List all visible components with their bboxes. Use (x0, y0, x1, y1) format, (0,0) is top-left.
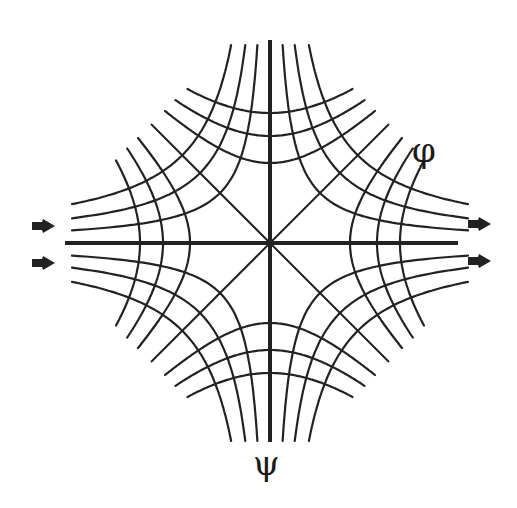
equipotential-line (138, 138, 190, 243)
arrow-in-left-lower-icon (32, 256, 55, 270)
psi-label: ψ (253, 446, 280, 480)
equipotential-line (116, 161, 140, 244)
equipotential-line (270, 111, 375, 163)
equipotential-line (188, 89, 271, 113)
equipotential-line (116, 243, 140, 326)
axes (65, 40, 458, 442)
equipotential-line (400, 243, 424, 326)
arrow-in-left-upper-icon (32, 219, 55, 233)
equipotential-line (188, 373, 271, 397)
stagnation-point (267, 240, 274, 247)
arrow-out-right-upper-icon (468, 217, 491, 231)
arrow-out-right-lower-icon (468, 254, 491, 268)
phi-label: φ (412, 133, 436, 167)
equipotential-line (350, 243, 402, 348)
flow-net-diagram (0, 0, 517, 508)
equipotential-line (400, 161, 424, 244)
equipotential-line (350, 138, 402, 243)
equipotential-line (138, 243, 190, 348)
equipotential-line (270, 89, 353, 113)
equipotential-line (270, 323, 375, 375)
equipotential-line (165, 111, 270, 163)
equipotential-line (270, 373, 353, 397)
equipotential-line (165, 323, 270, 375)
